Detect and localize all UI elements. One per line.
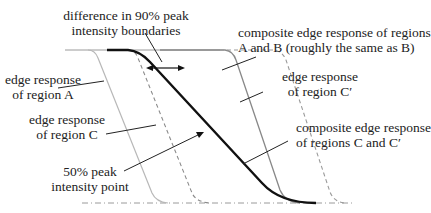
label-peak50-line1: 50% peak	[50, 164, 130, 179]
label-region-cprime-line2: of region C′	[265, 84, 375, 99]
label-region-c-line1: edge response	[27, 112, 107, 127]
leader-region-c	[106, 125, 156, 134]
label-region-cprime-line1: edge response	[265, 69, 375, 84]
label-difference-line1: difference in 90% peak	[56, 8, 196, 23]
label-region-c: edge response of region C	[27, 112, 107, 142]
leader-composite-cc	[243, 141, 288, 164]
label-region-c-line2: of region C	[27, 127, 107, 142]
label-composite-cc-line1: composite edge response	[296, 120, 431, 135]
label-peak50-line2: intensity point	[50, 179, 130, 194]
label-composite-ab: composite edge response of regions A and…	[238, 25, 431, 55]
label-difference-line2: intensity boundaries	[56, 23, 196, 38]
label-composite-ab-line2: A and B (roughly the same as B)	[238, 40, 431, 55]
label-region-a-line2: of region A	[0, 87, 86, 102]
label-composite-ab-line1: composite edge response of regions	[238, 25, 431, 40]
arrowhead-left-icon	[146, 65, 153, 71]
label-region-a: edge response of region A	[0, 72, 86, 102]
label-difference: difference in 90% peak intensity boundar…	[56, 8, 196, 38]
label-region-a-line1: edge response	[0, 72, 86, 87]
curve-region-c	[128, 50, 210, 203]
leader-region-cprime	[240, 92, 263, 102]
label-composite-cc: composite edge response of regions C and…	[296, 120, 431, 150]
label-composite-cc-line2: of regions C and C′	[296, 135, 431, 150]
label-peak50: 50% peak intensity point	[50, 164, 130, 194]
arrowhead-right-icon	[178, 65, 185, 71]
label-region-cprime: edge response of region C′	[265, 69, 375, 99]
